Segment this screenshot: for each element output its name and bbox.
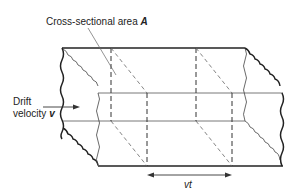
right-wavy-front-edge — [281, 93, 284, 166]
area-label-text: Cross-sectional area — [46, 16, 138, 27]
area-label: Cross-sectional area A — [46, 16, 148, 28]
left-wavy-diagonal-top — [63, 49, 98, 86]
drift-label-line2: velocity — [13, 108, 46, 119]
area-symbol: A — [141, 16, 148, 27]
area-leader-line — [88, 28, 116, 75]
drift-label-line1: Drift — [13, 96, 55, 108]
right-wavy-back-edge — [244, 48, 247, 121]
cross-section-2 — [196, 48, 232, 166]
cross-section-1 — [111, 48, 147, 166]
drift-label: Drift velocity v — [13, 96, 55, 120]
left-wavy-back-edge — [97, 93, 100, 166]
left-wavy-diagonal-bottom — [63, 128, 98, 165]
right-wavy-diagonal-bottom — [245, 121, 280, 160]
drift-symbol: v — [49, 108, 55, 119]
left-wavy-edge — [61, 48, 64, 139]
vt-label: vt — [184, 179, 192, 191]
vt-arrow — [147, 173, 232, 178]
right-wavy-diagonal-top — [245, 48, 280, 86]
